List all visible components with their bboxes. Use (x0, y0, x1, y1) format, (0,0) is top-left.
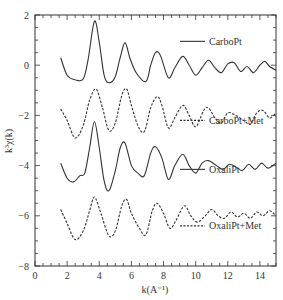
x-tick-label: 6 (129, 270, 134, 281)
x-tick-label: 12 (223, 270, 233, 281)
series-line-carbopt (61, 21, 276, 83)
legend-label: OxaliPt+Met (209, 220, 262, 231)
x-axis-label: k(A⁻¹) (142, 284, 169, 296)
y-tick-label: −2 (18, 110, 29, 121)
legend-label: CarboPt (209, 36, 242, 47)
x-tick-label: 14 (255, 270, 265, 281)
y-tick-label: −6 (18, 210, 29, 221)
series-line-oxalipt-plus-met (61, 197, 276, 240)
plot-area (61, 21, 276, 240)
y-axis-label: k³χ(k) (3, 129, 15, 153)
y-tick-label: −8 (18, 261, 29, 272)
x-tick-label: 8 (161, 270, 166, 281)
x-tick-label: 10 (191, 270, 201, 281)
legend-label: OxaliPt (209, 164, 240, 175)
x-tick-label: 0 (33, 270, 38, 281)
legend: CarboPtCarboPt+MetOxaliPtOxaliPt+Met (180, 36, 264, 231)
legend-label: CarboPt+Met (209, 115, 264, 126)
x-tick-label: 2 (65, 270, 70, 281)
y-tick-label: −4 (18, 160, 29, 171)
y-tick-label: 0 (24, 60, 29, 71)
y-tick-label: 2 (24, 10, 29, 21)
series-line-carbopt-plus-met (61, 89, 276, 139)
x-tick-label: 4 (97, 270, 102, 281)
exafs-chart: 02468101214 20−2−4−6−8 CarboPtCarboPt+Me… (0, 0, 283, 300)
series-line-oxalipt (61, 122, 276, 191)
